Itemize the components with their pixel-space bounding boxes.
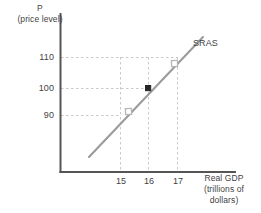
y-axis-label: P (price level) (4, 3, 76, 25)
x-tick-label-15: 15 (110, 176, 132, 186)
x-tick-label-17: 17 (167, 176, 189, 186)
y-tick-label-100: 100 (28, 83, 54, 93)
sras-chart-figure: P (price level) 110 100 90 15 16 17 Real… (0, 0, 261, 213)
y-tick-label-110: 110 (28, 52, 54, 62)
sras-curve-label: SRAS (193, 38, 218, 48)
sras-curve (89, 37, 203, 157)
point-high-marker (171, 60, 177, 66)
y-axis-label-line2: (price level) (4, 14, 76, 25)
horizontal-guide-lines (61, 58, 178, 116)
data-point-markers (125, 60, 177, 114)
y-tick-label-90: 90 (28, 110, 54, 120)
x-axis-label-line2: (trillions of (190, 184, 258, 195)
x-tick-label-16: 16 (138, 176, 160, 186)
point-low-marker (125, 108, 131, 114)
x-axis-label-line3: dollars) (190, 195, 258, 206)
point-equilibrium-marker (146, 86, 151, 91)
x-axis-label: Real GDP (trillions of dollars) (190, 173, 258, 206)
y-axis-label-line1: P (4, 3, 76, 14)
x-axis-label-line1: Real GDP (190, 173, 258, 184)
